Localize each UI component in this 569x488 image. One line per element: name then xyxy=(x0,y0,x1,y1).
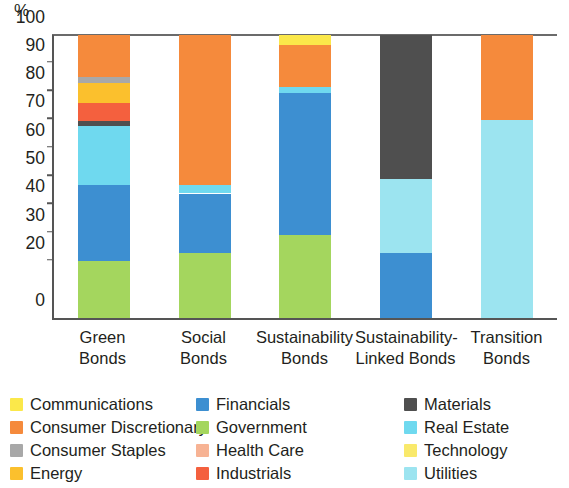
bar-segment[interactable] xyxy=(380,253,432,318)
legend-item[interactable]: Real Estate xyxy=(404,419,569,436)
legend-label: Health Care xyxy=(216,442,304,459)
y-tick-mark-40 xyxy=(47,203,54,205)
stacked-bar[interactable] xyxy=(78,35,130,318)
legend-item[interactable]: Financials xyxy=(196,396,404,413)
legend-item[interactable]: Energy xyxy=(10,465,196,482)
y-tick-label-70: 70 xyxy=(26,94,54,112)
x-axis-label: Sustainability Bonds xyxy=(254,327,355,369)
legend-swatch xyxy=(196,444,209,457)
legend-swatch xyxy=(196,398,209,411)
legend-label: Energy xyxy=(30,465,82,482)
y-tick-mark-70 xyxy=(47,118,54,120)
legend-label: Consumer Staples xyxy=(30,442,166,459)
legend-swatch xyxy=(404,398,417,411)
y-tick-label-40: 40 xyxy=(26,179,54,197)
legend-item[interactable]: Communications xyxy=(10,396,196,413)
y-tick-label-60: 60 xyxy=(26,122,54,140)
legend-label: Communications xyxy=(30,396,153,413)
bar-segment[interactable] xyxy=(279,35,331,45)
x-axis-label: Green Bonds xyxy=(52,327,153,369)
legend-swatch xyxy=(10,444,23,457)
bar-segment[interactable] xyxy=(78,261,130,318)
x-axis-category-labels: Green BondsSocial BondsSustainability Bo… xyxy=(52,327,557,385)
y-tick-mark-80 xyxy=(47,89,54,91)
legend-swatch xyxy=(10,421,23,434)
legend-label: Financials xyxy=(216,396,290,413)
y-tick-label-30: 30 xyxy=(26,207,54,225)
y-tick-mark-90 xyxy=(47,61,54,63)
legend-item[interactable]: Industrials xyxy=(196,465,404,482)
stacked-bar[interactable] xyxy=(380,35,432,318)
legend-swatch xyxy=(196,467,209,480)
legend-label: Utilities xyxy=(424,465,477,482)
legend-label: Materials xyxy=(424,396,491,413)
chart-page: % 02030405060708090100 Green BondsSocial… xyxy=(0,0,569,488)
bar-slot xyxy=(54,35,155,318)
y-tick-label-80: 80 xyxy=(26,65,54,83)
legend-label: Government xyxy=(216,419,307,436)
y-tick-mark-50 xyxy=(47,174,54,176)
bar-segment[interactable] xyxy=(179,185,231,193)
bar-segment[interactable] xyxy=(481,35,533,120)
legend-item[interactable]: Consumer Discretionary xyxy=(10,419,196,436)
legend-label: Technology xyxy=(424,442,507,459)
stacked-bar[interactable] xyxy=(279,35,331,318)
y-tick-label-90: 90 xyxy=(26,37,54,55)
x-axis-label: Transition Bonds xyxy=(456,327,557,369)
legend-item[interactable]: Technology xyxy=(404,442,569,459)
legend-item[interactable]: Materials xyxy=(404,396,569,413)
bar-segment[interactable] xyxy=(481,120,533,318)
y-tick-label-20: 20 xyxy=(26,235,54,253)
bar-segment[interactable] xyxy=(380,35,432,179)
legend-item[interactable]: Government xyxy=(196,419,404,436)
bar-segment[interactable] xyxy=(380,179,432,253)
y-tick-label-0: 0 xyxy=(35,292,54,310)
y-tick-label-100: 100 xyxy=(16,9,54,27)
legend-swatch xyxy=(10,398,23,411)
bar-segment[interactable] xyxy=(78,121,130,125)
legend-swatch xyxy=(404,444,417,457)
plot-area: 02030405060708090100 xyxy=(52,35,557,320)
x-axis-label: Sustainability- Linked Bonds xyxy=(355,327,456,369)
legend-item[interactable]: Health Care xyxy=(196,442,404,459)
x-axis-label: Social Bonds xyxy=(153,327,254,369)
y-tick-mark-30 xyxy=(47,231,54,233)
bar-segment[interactable] xyxy=(179,253,231,318)
y-tick-mark-60 xyxy=(47,146,54,148)
bar-segment[interactable] xyxy=(179,194,231,253)
bar-segment[interactable] xyxy=(179,35,231,185)
stacked-bars xyxy=(54,35,557,318)
legend-swatch xyxy=(404,467,417,480)
bar-segment[interactable] xyxy=(78,77,130,83)
bar-segment[interactable] xyxy=(78,185,130,261)
legend-item[interactable]: Consumer Staples xyxy=(10,442,196,459)
legend-swatch xyxy=(404,421,417,434)
bar-segment[interactable] xyxy=(78,35,130,77)
stacked-bar[interactable] xyxy=(481,35,533,318)
legend-label: Consumer Discretionary xyxy=(30,419,207,436)
bar-segment[interactable] xyxy=(279,235,331,318)
chart-legend: CommunicationsFinancialsMaterialsConsume… xyxy=(10,393,569,485)
bar-slot xyxy=(155,35,256,318)
bar-slot xyxy=(356,35,457,318)
bar-segment[interactable] xyxy=(78,83,130,103)
y-tick-mark-20 xyxy=(47,259,54,261)
legend-label: Real Estate xyxy=(424,419,509,436)
legend-label: Industrials xyxy=(216,465,291,482)
bar-segment[interactable] xyxy=(279,45,331,87)
legend-swatch xyxy=(10,467,23,480)
bar-slot xyxy=(456,35,557,318)
bar-slot xyxy=(255,35,356,318)
legend-item[interactable]: Utilities xyxy=(404,465,569,482)
legend-swatch xyxy=(196,421,209,434)
bar-segment[interactable] xyxy=(78,126,130,185)
stacked-bar[interactable] xyxy=(179,35,231,318)
y-tick-label-50: 50 xyxy=(26,150,54,168)
bar-segment[interactable] xyxy=(78,103,130,121)
bar-segment[interactable] xyxy=(279,87,331,93)
bar-segment[interactable] xyxy=(279,93,331,235)
